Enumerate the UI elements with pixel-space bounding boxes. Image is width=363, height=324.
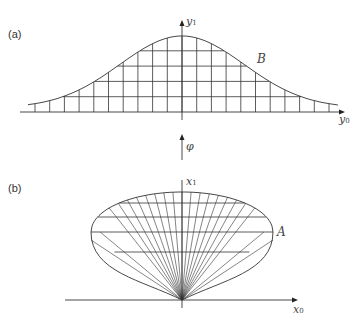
panel-b-label: (b) <box>8 182 21 194</box>
figure-canvas <box>0 0 363 324</box>
curve-b-label: B <box>257 52 266 66</box>
x0-axis-label: x0 <box>293 303 304 316</box>
diagram: (a) y1 y0 B φ (b) x1 x0 A <box>0 0 363 324</box>
x1-axis-label: x1 <box>186 175 197 188</box>
curve-a-label: A <box>277 225 286 239</box>
y1-axis-label: y1 <box>186 15 197 28</box>
phi-label: φ <box>186 140 194 153</box>
panel-a-label: (a) <box>8 28 21 40</box>
y0-axis-label: y0 <box>339 113 350 126</box>
